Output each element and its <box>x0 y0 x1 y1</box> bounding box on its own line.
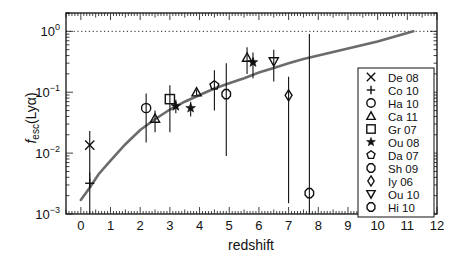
legend-label: Co 10 <box>388 85 419 97</box>
x-tick-label: 2 <box>137 218 144 233</box>
x-tick-label: 3 <box>166 218 173 233</box>
data-point <box>192 88 201 96</box>
y-axis-title-sub: esc <box>30 124 41 140</box>
legend-label: Sh 09 <box>388 163 418 175</box>
legend-label: Ha 10 <box>388 98 419 110</box>
data-point <box>222 63 231 156</box>
legend-label: Ca 11 <box>388 111 418 123</box>
legend-label: Ou 08 <box>388 137 419 149</box>
y-tick-label: 100 <box>41 22 60 39</box>
x-axis-title: redshift <box>228 237 274 253</box>
legend-label: Da 07 <box>388 150 419 162</box>
legend-label: Gr 07 <box>388 124 417 136</box>
legend-label: Iy 06 <box>388 176 413 188</box>
data-point <box>285 77 292 204</box>
legend-label: Ou 10 <box>388 189 419 201</box>
legend: De 08Co 10Ha 10Ca 11Gr 07Ou 08Da 07Sh 09… <box>358 68 434 217</box>
data-point <box>142 94 151 143</box>
x-tick-label: 11 <box>401 218 415 233</box>
data-point <box>269 50 278 82</box>
x-tick-label: 9 <box>344 218 351 233</box>
data-points <box>85 34 313 214</box>
x-tick-label: 7 <box>285 218 292 233</box>
x-tick-label: 4 <box>196 218 203 233</box>
x-tick-label: 6 <box>255 218 262 233</box>
x-tick-label: 0 <box>77 218 84 233</box>
y-tick-label: 10−2 <box>35 144 60 161</box>
data-point <box>305 34 314 214</box>
y-tick-label: 10−3 <box>35 205 60 222</box>
plus-marker-icon <box>85 179 94 188</box>
x-tick-label: 5 <box>226 218 233 233</box>
legend-label: Hi 10 <box>388 202 415 214</box>
x-tick-label: 1 <box>107 218 114 233</box>
data-point <box>171 100 181 114</box>
data-point <box>186 102 196 117</box>
x-tick-label: 10 <box>370 218 384 233</box>
y-axis-title: fesc(Lyα) <box>23 92 41 143</box>
x-tick-label: 12 <box>430 218 444 233</box>
y-axis-title-rest: (Lyα) <box>23 92 39 124</box>
legend-label: De 08 <box>388 72 419 84</box>
chart: 012345678910111210−310−210−1100 De 08Co … <box>0 0 456 255</box>
x-tick-label: 8 <box>315 218 322 233</box>
